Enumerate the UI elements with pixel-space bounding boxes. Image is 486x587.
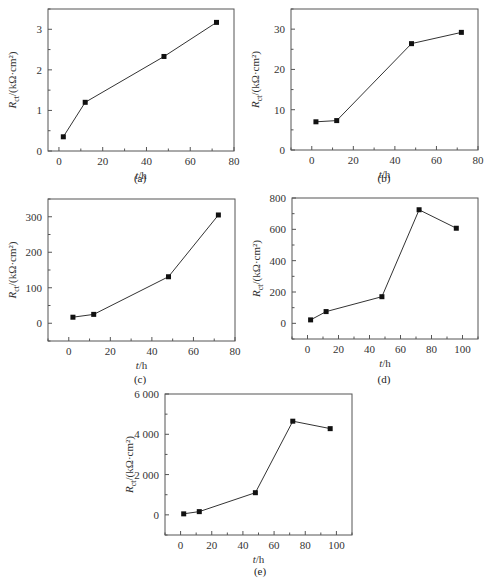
y-tick-label: 300 xyxy=(26,211,43,223)
x-tick-label: 20 xyxy=(348,154,360,166)
x-tick-label: 20 xyxy=(206,539,218,551)
chart-svg: 0204060801000200400600800t/hRct/(kΩ·cm²) xyxy=(243,190,486,382)
x-axis-label: t/h xyxy=(379,357,391,369)
caption-b: (b) xyxy=(364,172,404,184)
x-tick-label: 20 xyxy=(105,345,117,357)
x-tick-label: 60 xyxy=(188,345,200,357)
y-tick-label: 0 xyxy=(280,144,286,156)
plot-frame xyxy=(165,394,352,535)
data-point-marker xyxy=(197,509,202,514)
chart-svg: 0204060800123t/hRct/(kΩ·cm²) xyxy=(0,0,243,190)
x-tick-label: 40 xyxy=(237,539,249,551)
x-tick-label: 0 xyxy=(305,343,311,355)
data-point-marker xyxy=(454,226,459,231)
x-tick-label: 80 xyxy=(300,539,312,551)
data-point-marker xyxy=(328,426,333,431)
y-tick-label: 10 xyxy=(274,104,286,116)
data-point-marker xyxy=(83,100,88,105)
data-point-marker xyxy=(61,134,66,139)
data-point-marker xyxy=(324,309,329,314)
data-point-marker xyxy=(290,419,295,424)
chart-panel-e: 02040608010002 0004 0006 000t/hRct/(kΩ·c… xyxy=(110,382,370,587)
data-point-marker xyxy=(313,119,318,124)
caption-a: (a) xyxy=(120,172,160,184)
data-point-marker xyxy=(459,30,464,35)
data-point-marker xyxy=(181,511,186,516)
data-point-marker xyxy=(334,118,339,123)
y-tick-label: 20 xyxy=(274,63,286,75)
caption-c: (c) xyxy=(120,373,160,385)
y-tick-label: 1 xyxy=(37,104,43,116)
plot-frame xyxy=(48,199,235,341)
plot-frame xyxy=(292,198,478,339)
x-tick-label: 40 xyxy=(141,155,153,167)
x-tick-label: 100 xyxy=(328,539,345,551)
chart-svg: 0204060800100200300t/hRct/(kΩ·cm²) xyxy=(0,190,243,382)
plot-frame xyxy=(48,9,234,151)
y-tick-label: 400 xyxy=(270,255,287,267)
plot-frame xyxy=(291,9,478,150)
chart-panel-d: 0204060801000200400600800t/hRct/(kΩ·cm²) xyxy=(243,190,486,382)
caption-d: (d) xyxy=(364,373,404,385)
x-axis-label: t/h xyxy=(253,553,265,565)
x-tick-label: 60 xyxy=(185,155,197,167)
x-tick-label: 60 xyxy=(269,539,281,551)
x-tick-label: 20 xyxy=(97,155,109,167)
y-tick-label: 30 xyxy=(274,23,286,35)
data-point-marker xyxy=(216,212,221,217)
y-tick-label: 2 xyxy=(37,64,43,76)
data-point-marker xyxy=(214,20,219,25)
series-line xyxy=(73,215,219,317)
x-tick-label: 60 xyxy=(431,154,443,166)
data-point-marker xyxy=(70,315,75,320)
y-axis-label: Rct/(kΩ·cm²) xyxy=(250,240,265,298)
x-axis-label: t/h xyxy=(136,359,148,371)
caption-e: (e) xyxy=(240,565,280,577)
data-point-marker xyxy=(166,274,171,279)
series-line xyxy=(311,210,457,320)
y-axis-label: Rct/(kΩ·cm²) xyxy=(6,241,21,299)
x-tick-label: 0 xyxy=(178,539,184,551)
series-line xyxy=(316,32,462,121)
data-point-marker xyxy=(91,312,96,317)
x-tick-label: 80 xyxy=(426,343,438,355)
y-tick-label: 4 000 xyxy=(134,428,159,440)
y-tick-label: 200 xyxy=(26,246,43,258)
x-tick-label: 40 xyxy=(389,154,401,166)
x-tick-label: 0 xyxy=(56,155,62,167)
x-tick-label: 100 xyxy=(454,343,471,355)
y-axis-label: Rct/(kΩ·cm²) xyxy=(6,51,21,109)
x-tick-label: 0 xyxy=(309,154,315,166)
data-point-marker xyxy=(409,41,414,46)
series-line xyxy=(184,421,331,514)
y-tick-label: 0 xyxy=(37,317,43,329)
y-tick-label: 2 000 xyxy=(134,469,159,481)
series-line xyxy=(63,22,216,136)
x-tick-label: 40 xyxy=(364,343,376,355)
x-tick-label: 60 xyxy=(395,343,407,355)
chart-panel-a: 0204060800123t/hRct/(kΩ·cm²) xyxy=(0,0,243,190)
x-tick-label: 0 xyxy=(66,345,72,357)
y-tick-label: 6 000 xyxy=(134,388,159,400)
x-tick-label: 80 xyxy=(473,154,485,166)
chart-svg: 02040608010002 0004 0006 000t/hRct/(kΩ·c… xyxy=(110,382,370,587)
data-point-marker xyxy=(253,490,258,495)
y-tick-label: 200 xyxy=(270,286,287,298)
y-tick-label: 100 xyxy=(26,282,43,294)
data-point-marker xyxy=(308,317,313,322)
y-tick-label: 600 xyxy=(270,223,287,235)
data-point-marker xyxy=(417,207,422,212)
y-tick-label: 0 xyxy=(281,317,287,329)
y-tick-label: 0 xyxy=(154,509,160,521)
y-tick-label: 800 xyxy=(270,192,287,204)
chart-svg: 0204060800102030t/hRct/(kΩ·cm²) xyxy=(243,0,486,190)
chart-panel-c: 0204060800100200300t/hRct/(kΩ·cm²) xyxy=(0,190,243,382)
x-tick-label: 40 xyxy=(146,345,158,357)
x-tick-label: 20 xyxy=(333,343,345,355)
y-axis-label: Rct/(kΩ·cm²) xyxy=(249,51,264,109)
y-tick-label: 0 xyxy=(37,145,43,157)
data-point-marker xyxy=(161,54,166,59)
y-axis-label: Rct/(kΩ·cm²) xyxy=(123,436,138,494)
y-tick-label: 3 xyxy=(37,23,43,35)
chart-panel-b: 0204060800102030t/hRct/(kΩ·cm²) xyxy=(243,0,486,190)
